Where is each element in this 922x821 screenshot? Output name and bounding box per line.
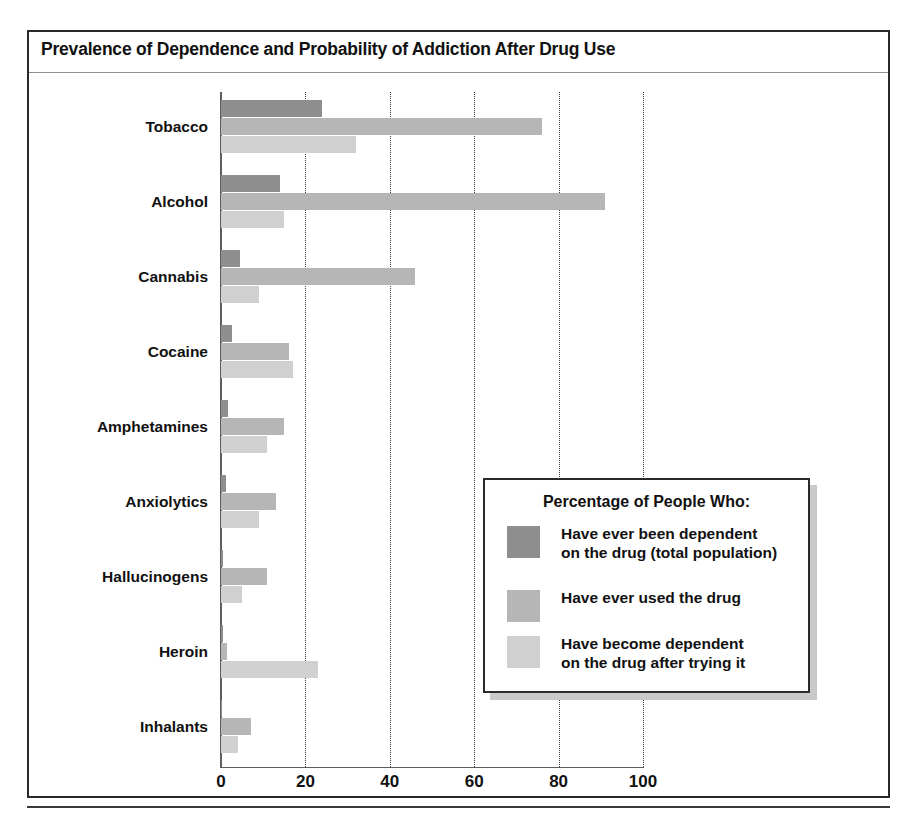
x-tick-label: 100 [629, 772, 657, 792]
bar [221, 586, 242, 603]
category-label: Hallucinogens [102, 568, 208, 586]
bar [221, 643, 227, 660]
bar [221, 118, 542, 135]
bar [221, 175, 280, 192]
bar [221, 475, 226, 492]
bar [221, 550, 223, 567]
bar-group: Tobacco [221, 100, 643, 153]
bar [221, 661, 318, 678]
bar-group: Inhalants [221, 700, 643, 753]
bar [221, 400, 228, 417]
x-tick-label: 20 [296, 772, 315, 792]
bar-group: Cocaine [221, 325, 643, 378]
legend-swatch [507, 590, 540, 622]
x-tick-label: 0 [216, 772, 225, 792]
x-tick-label: 80 [549, 772, 568, 792]
category-label: Heroin [159, 643, 208, 661]
bar [221, 736, 238, 753]
bar [221, 700, 222, 717]
bar [221, 361, 293, 378]
bar [221, 718, 251, 735]
category-label: Cocaine [148, 343, 208, 361]
bar [221, 250, 240, 267]
figure-panel: Prevalence of Dependence and Probability… [27, 30, 890, 798]
x-tick-label: 60 [465, 772, 484, 792]
bar [221, 511, 259, 528]
bar [221, 568, 267, 585]
legend-title: Percentage of People Who: [485, 493, 808, 511]
bar [221, 436, 267, 453]
bar [221, 211, 284, 228]
legend-label: Have ever been dependent on the drug (to… [561, 524, 777, 562]
bar [221, 418, 284, 435]
bar [221, 625, 223, 642]
legend-swatch [507, 526, 540, 558]
bar [221, 343, 289, 360]
bar [221, 325, 232, 342]
chart-legend: Percentage of People Who: Have ever been… [483, 478, 810, 693]
category-label: Anxiolytics [125, 493, 208, 511]
legend-swatch [507, 636, 540, 668]
chart-title: Prevalence of Dependence and Probability… [41, 39, 615, 60]
bar [221, 193, 605, 210]
title-divider [29, 72, 888, 73]
bar-group: Amphetamines [221, 400, 643, 453]
legend-label: Have ever used the drug [561, 588, 741, 607]
caption-divider [27, 806, 890, 808]
category-label: Cannabis [138, 268, 208, 286]
x-axis-line [220, 767, 644, 769]
bar [221, 100, 322, 117]
bar [221, 136, 356, 153]
category-label: Inhalants [140, 718, 208, 736]
category-label: Tobacco [145, 118, 208, 136]
figure-caption [33, 812, 893, 821]
bar-group: Cannabis [221, 250, 643, 303]
category-label: Alcohol [151, 193, 208, 211]
legend-label: Have become dependent on the drug after … [561, 634, 745, 672]
bar [221, 493, 276, 510]
bar [221, 268, 415, 285]
category-label: Amphetamines [97, 418, 208, 436]
x-tick-label: 40 [380, 772, 399, 792]
bar [221, 286, 259, 303]
bar-group: Alcohol [221, 175, 643, 228]
